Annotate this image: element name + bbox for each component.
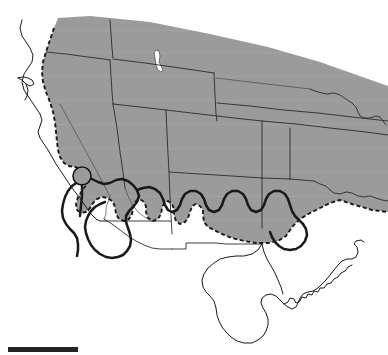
rio-grande-border	[262, 244, 283, 294]
scale-bar	[8, 347, 78, 352]
texas-outline	[202, 240, 364, 343]
isolated-population-blob	[73, 167, 91, 185]
distribution-map-figure	[0, 0, 388, 355]
solid-range-boundary-ca-arm	[62, 183, 78, 256]
new-mexico-south-border	[172, 243, 262, 249]
isolated-population-stem	[80, 185, 82, 216]
map-canvas	[0, 0, 388, 355]
arizona-south-border	[104, 219, 172, 249]
texas-gulf-coast-detail	[284, 265, 352, 304]
